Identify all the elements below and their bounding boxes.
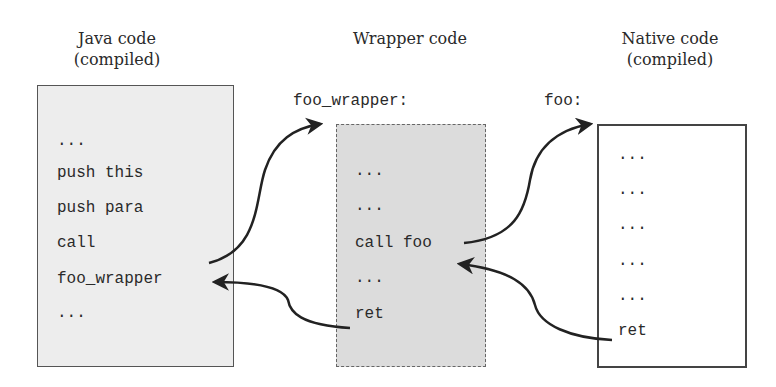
arrow-return-wrapper (460, 264, 612, 340)
arrow-call-native (464, 124, 590, 243)
arrow-call-wrapper (209, 124, 320, 263)
call-flow-arrows (0, 0, 776, 387)
arrow-return-java (215, 282, 350, 328)
